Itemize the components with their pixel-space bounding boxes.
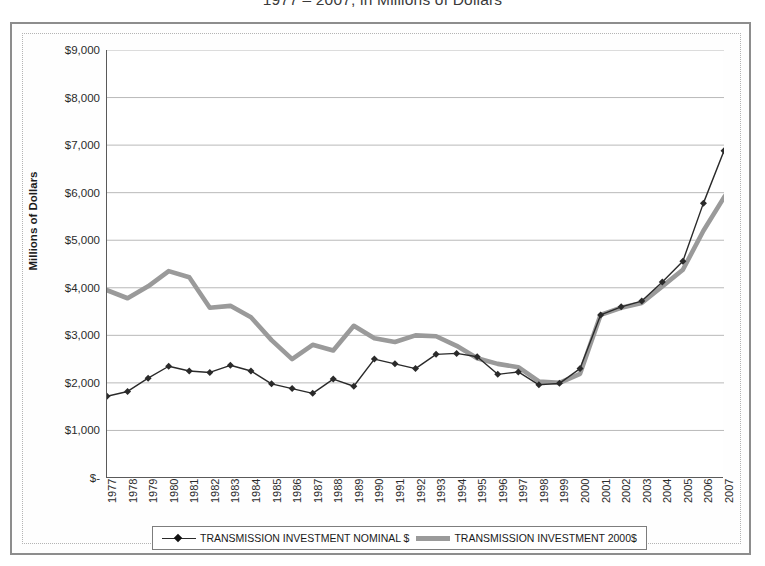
x-tick-label: 1996 [497,489,509,503]
x-tick-label: 1992 [415,489,427,503]
x-axis-tick-labels: 1977197819791980198119821983198419851986… [106,482,723,530]
x-tick-label: 2004 [661,489,673,503]
x-tick-label: 1979 [147,489,159,503]
series-line-real [107,169,724,383]
y-axis-tick-labels: $-$1,000$2,000$3,000$4,000$5,000$6,000$7… [32,50,100,478]
data-series-layer [107,50,724,478]
x-tick-label: 1982 [209,489,221,503]
x-tick-label: 1984 [250,489,262,503]
data-point-marker [124,388,131,395]
legend-marker-nominal-icon [162,533,196,543]
x-tick-label: 1995 [476,489,488,503]
x-tick-label: 1991 [394,489,406,503]
x-tick-label: 1987 [312,489,324,503]
x-tick-label: 1985 [271,489,283,503]
x-tick-label: 2007 [723,489,735,503]
y-tick-label: $5,000 [38,234,100,246]
y-tick-label: $7,000 [38,139,100,151]
data-point-marker [289,385,296,392]
x-tick-label: 1999 [558,489,570,503]
legend-label-real: TRANSMISSION INVESTMENT 2000$ [454,532,636,544]
x-tick-label: 1981 [188,489,200,503]
data-point-marker [107,393,111,400]
data-point-marker [721,147,725,154]
y-tick-label: $6,000 [38,187,100,199]
x-tick-label: 1990 [373,489,385,503]
data-point-marker [268,380,275,387]
x-tick-label: 2005 [682,489,694,503]
x-tick-label: 1993 [435,489,447,503]
data-point-marker [186,368,193,375]
data-point-marker [453,350,460,357]
x-tick-label: 1980 [168,489,180,503]
data-point-marker [700,200,707,207]
y-tick-label: $1,000 [38,424,100,436]
x-tick-label: 1997 [517,489,529,503]
data-point-marker [165,363,172,370]
data-point-marker [227,362,234,369]
x-tick-label: 2003 [641,489,653,503]
x-tick-label: 1988 [332,489,344,503]
x-tick-label: 1983 [229,489,241,503]
y-tick-label: $9,000 [38,44,100,56]
page-title: 1977 – 2007, in Millions of Dollars [0,0,765,9]
chart-legend: TRANSMISSION INVESTMENT NOMINAL $ TRANSM… [152,526,647,550]
legend-marker-real-icon [416,536,450,541]
x-tick-label: 2002 [620,489,632,503]
y-tick-label: $- [38,472,100,484]
y-tick-label: $4,000 [38,282,100,294]
legend-item-nominal: TRANSMISSION INVESTMENT NOMINAL $ [162,532,409,544]
y-tick-label: $2,000 [38,377,100,389]
data-point-marker [391,360,398,367]
x-tick-label: 1989 [353,489,365,503]
x-tick-label: 1986 [291,489,303,503]
x-tick-label: 2006 [702,489,714,503]
x-tick-label: 1978 [127,489,139,503]
x-tick-label: 2000 [579,489,591,503]
plot-area [106,50,723,478]
data-point-marker [145,375,152,382]
x-tick-label: 1994 [456,489,468,503]
x-tick-label: 2001 [600,489,612,503]
data-point-marker [206,369,213,376]
x-tick-label: 1977 [106,489,118,503]
series-line-nominal [107,108,724,396]
x-tick-label: 1998 [538,489,550,503]
y-tick-label: $8,000 [38,92,100,104]
data-point-marker [247,368,254,375]
legend-item-real: TRANSMISSION INVESTMENT 2000$ [416,532,636,544]
legend-label-nominal: TRANSMISSION INVESTMENT NOMINAL $ [200,532,409,544]
y-tick-label: $3,000 [38,329,100,341]
